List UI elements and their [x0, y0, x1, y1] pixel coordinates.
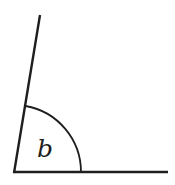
angle-arc — [26, 106, 82, 172]
angle-diagram: b — [0, 0, 175, 185]
angle-label: b — [37, 134, 53, 163]
